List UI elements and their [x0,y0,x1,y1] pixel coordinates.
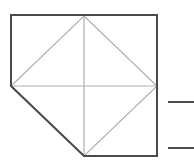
geometric-figure [0,0,194,167]
figure-canvas [0,0,194,167]
figure-background [0,0,194,167]
